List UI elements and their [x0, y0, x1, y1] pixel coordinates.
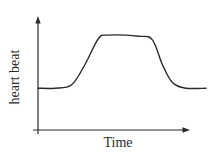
- chart-plot: [0, 0, 216, 155]
- heart-beat-curve: [38, 35, 206, 89]
- heart-beat-chart: heart beat Time: [0, 0, 216, 155]
- y-axis-arrow-icon: [35, 16, 40, 24]
- x-axis-arrow-icon: [183, 127, 191, 132]
- y-axis-label: heart beat: [8, 50, 22, 105]
- x-axis-label: Time: [103, 136, 132, 150]
